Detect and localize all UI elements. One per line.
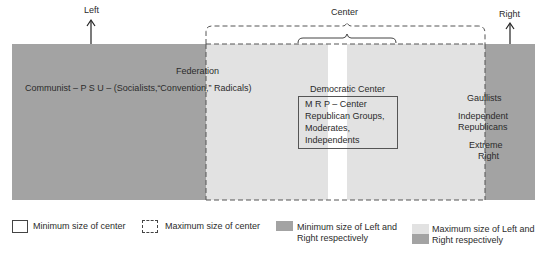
- extreme-right-label: Right: [478, 151, 499, 162]
- independent-republicans-label: Independent: [458, 111, 508, 122]
- center-box-line: Republican Groups,: [305, 111, 385, 122]
- gaullists-label: Gaullists: [467, 93, 502, 104]
- federation-label: Federation: [176, 66, 219, 77]
- center-box-line: M R P – Center: [305, 99, 367, 110]
- independent-republicans-label: Republicans: [458, 122, 508, 133]
- center-box-line: Independents: [305, 135, 360, 146]
- extreme-right-label: Extreme: [469, 140, 503, 151]
- legend-label: Maximum size of center: [165, 221, 260, 232]
- legend-label: Minimum size of center: [33, 221, 126, 232]
- right-arrow-icon: [506, 23, 514, 44]
- left-parties-label: Communist – P S U – (Socialists,“Convent…: [25, 83, 251, 94]
- minimum-center-brace: [298, 34, 396, 43]
- center-box-line: Moderates,: [305, 123, 350, 134]
- legend-label: Right respectively: [297, 233, 368, 244]
- democratic-center-label: Democratic Center: [310, 84, 385, 95]
- legend-label: Right respectively: [432, 235, 503, 246]
- left-arrow-icon: [87, 20, 95, 44]
- legend-solid-outline-swatch: [12, 220, 28, 233]
- legend-light-fill-swatch: [412, 224, 429, 234]
- left-axis-label: Left: [84, 5, 99, 16]
- legend-dark-fill-swatch: [276, 221, 293, 231]
- right-axis-label: Right: [499, 9, 520, 20]
- legend-dashed-outline-swatch: [142, 220, 158, 233]
- minimum-center-box: M R P – Center Republican Groups, Modera…: [298, 96, 398, 149]
- legend-label: Maximum size of Left and: [432, 224, 535, 235]
- legend-label: Minimum size of Left and: [297, 222, 397, 233]
- center-axis-label: Center: [331, 7, 358, 18]
- legend-dark-fill-swatch: [412, 234, 429, 244]
